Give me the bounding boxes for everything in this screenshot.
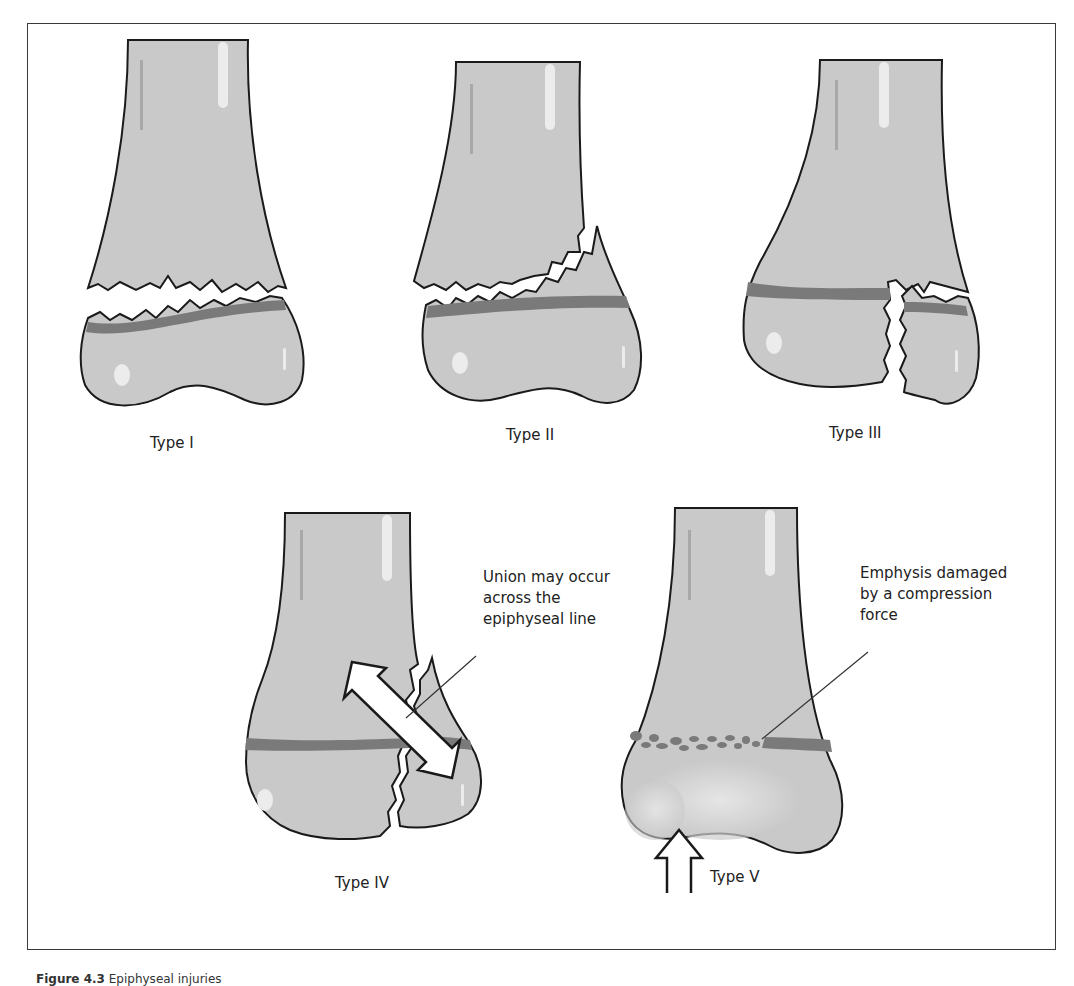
bone-type-1 (81, 40, 304, 405)
figure-caption: Figure 4.3 Epiphyseal injuries (36, 972, 222, 986)
bone-type-3 (744, 60, 979, 404)
label-type-1: Type I (150, 434, 194, 452)
annotation-type-4: Union may occur across the epiphyseal li… (483, 567, 623, 630)
bone-type-5 (622, 508, 868, 893)
annotation-type-5: Emphysis damaged by a compression force (860, 563, 1010, 626)
caption-text: Epiphyseal injuries (109, 972, 222, 986)
label-type-4: Type IV (335, 874, 389, 892)
label-type-3: Type III (829, 424, 882, 442)
bone-type-4 (246, 513, 481, 839)
bone-type-2 (414, 62, 641, 403)
label-type-5: Type V (710, 868, 759, 886)
label-type-2: Type II (506, 426, 554, 444)
caption-number: Figure 4.3 (36, 972, 105, 986)
